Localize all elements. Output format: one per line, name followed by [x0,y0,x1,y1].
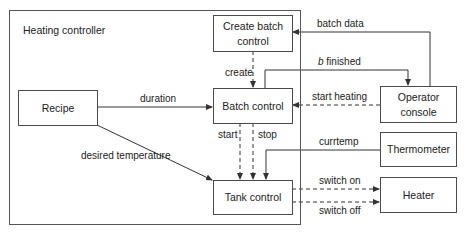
edge-label-batch-data: batch data [317,18,364,29]
edge-label-switch-off: switch off [319,205,361,216]
edge-label-stop: stop [258,129,277,140]
node-recipe[interactable]: Recipe [18,90,98,126]
edge-label-duration: duration [140,93,176,104]
node-label-line2: control [223,34,283,48]
edge-label-b-rest: finished [324,56,361,67]
node-label-line1: Create batch [223,19,283,33]
node-label: Batch control [222,99,283,113]
edge-label-create: create [225,67,253,78]
node-tank-control[interactable]: Tank control [213,180,293,215]
node-label: Recipe [42,101,75,115]
node-label: Heater [403,188,435,202]
node-label-line1: Operator [398,90,439,104]
node-operator-console[interactable]: Operator console [380,86,457,123]
node-batch-control[interactable]: Batch control [213,88,293,124]
node-create-batch-control[interactable]: Create batch control [213,15,293,52]
edge-label-start: start [218,129,237,140]
container-title: Heating controller [23,24,105,36]
edge-batch-data [293,32,430,86]
edge-label-switch-on: switch on [319,175,361,186]
edge-label-b-finished: b finished [318,56,361,67]
node-heater[interactable]: Heater [380,177,457,213]
edge-label-start-heating: start heating [312,91,367,102]
node-label: Tank control [225,190,282,204]
edge-label-currtemp: currtemp [319,136,358,147]
node-label: Thermometer [387,142,450,156]
node-thermometer[interactable]: Thermometer [380,132,457,167]
node-label-line2: console [398,105,439,119]
boundary-right-edge [300,10,301,225]
edge-label-desired-temperature: desired temperature [81,150,171,161]
